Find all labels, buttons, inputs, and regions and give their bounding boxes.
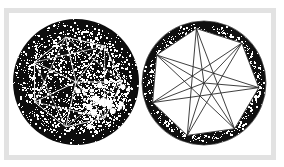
figure-container: scanned halftone black-and-white line fi…: [0, 0, 284, 167]
two-circle-polygon-figure: [0, 0, 284, 167]
